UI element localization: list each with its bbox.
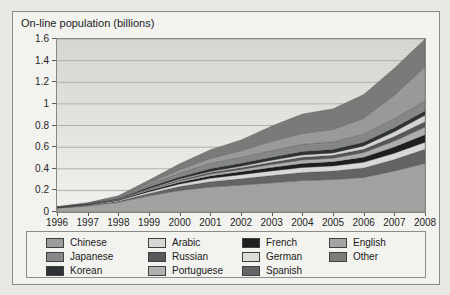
legend-item-arabic: Arabic bbox=[148, 238, 200, 248]
legend-item-russian: Russian bbox=[148, 252, 208, 262]
legend-label: French bbox=[266, 238, 297, 248]
x-tick-label: 2000 bbox=[163, 217, 197, 228]
legend-label: English bbox=[353, 238, 386, 248]
legend-item-portuguese: Portuguese bbox=[148, 266, 223, 276]
x-tick-label: 1996 bbox=[40, 217, 74, 228]
y-tick-label: 0.2 bbox=[15, 185, 49, 195]
legend-item-other: Other bbox=[329, 252, 378, 262]
legend-swatch-spanish bbox=[242, 266, 260, 276]
legend-swatch-korean bbox=[46, 266, 64, 276]
x-tick-mark bbox=[88, 213, 89, 216]
y-tick-label: 1.6 bbox=[15, 34, 49, 44]
legend-label: Arabic bbox=[172, 238, 200, 248]
legend-swatch-arabic bbox=[148, 238, 166, 248]
legend-item-german: German bbox=[242, 252, 302, 262]
legend-swatch-chinese bbox=[46, 238, 64, 248]
legend-label: German bbox=[266, 252, 302, 262]
legend-swatch-english bbox=[329, 238, 347, 248]
legend-label: Portuguese bbox=[172, 266, 223, 276]
x-tick-label: 1999 bbox=[132, 217, 166, 228]
x-tick-label: 2005 bbox=[316, 217, 350, 228]
chart-title: On-line population (billions) bbox=[21, 17, 154, 29]
x-tick-mark bbox=[118, 213, 119, 216]
legend-box: ChineseJapaneseKoreanArabicRussianPortug… bbox=[26, 231, 426, 278]
legend-item-spanish: Spanish bbox=[242, 266, 302, 276]
x-tick-label: 2007 bbox=[377, 217, 411, 228]
y-tick-label: 0.8 bbox=[15, 121, 49, 131]
legend-label: Spanish bbox=[266, 266, 302, 276]
chart-figure: On-line population (billions) 1.61.41.21… bbox=[12, 11, 440, 285]
legend-swatch-other bbox=[329, 252, 347, 262]
x-tick-mark bbox=[149, 213, 150, 216]
legend-item-japanese: Japanese bbox=[46, 252, 113, 262]
legend-item-english: English bbox=[329, 238, 386, 248]
legend-swatch-portuguese bbox=[148, 266, 166, 276]
x-tick-label: 2004 bbox=[285, 217, 319, 228]
legend-label: Chinese bbox=[70, 238, 107, 248]
x-tick-label: 1997 bbox=[71, 217, 105, 228]
x-tick-mark bbox=[272, 213, 273, 216]
legend-label: Korean bbox=[70, 266, 102, 276]
plot-area bbox=[56, 38, 426, 213]
scanned-book-page: { "figure": { "title": "On-line populati… bbox=[0, 0, 450, 295]
legend-label: Other bbox=[353, 252, 378, 262]
legend-item-korean: Korean bbox=[46, 266, 102, 276]
x-tick-mark bbox=[302, 213, 303, 216]
y-tick-label: 1 bbox=[15, 99, 49, 109]
y-tick-label: 0 bbox=[15, 207, 49, 217]
x-tick-label: 2002 bbox=[224, 217, 258, 228]
legend-item-chinese: Chinese bbox=[46, 238, 107, 248]
legend-label: Japanese bbox=[70, 252, 113, 262]
legend-swatch-german bbox=[242, 252, 260, 262]
stacked-area-chart bbox=[57, 39, 425, 212]
x-tick-label: 1998 bbox=[101, 217, 135, 228]
x-tick-mark bbox=[364, 213, 365, 216]
legend-item-french: French bbox=[242, 238, 297, 248]
x-tick-mark bbox=[425, 213, 426, 216]
x-tick-label: 2006 bbox=[347, 217, 381, 228]
legend-swatch-japanese bbox=[46, 252, 64, 262]
x-tick-mark bbox=[210, 213, 211, 216]
legend-label: Russian bbox=[172, 252, 208, 262]
x-tick-mark bbox=[394, 213, 395, 216]
legend-swatch-french bbox=[242, 238, 260, 248]
x-tick-mark bbox=[57, 213, 58, 216]
y-tick-label: 0.4 bbox=[15, 164, 49, 174]
x-tick-label: 2001 bbox=[193, 217, 227, 228]
x-tick-mark bbox=[180, 213, 181, 216]
x-tick-mark bbox=[241, 213, 242, 216]
x-tick-mark bbox=[333, 213, 334, 216]
legend-swatch-russian bbox=[148, 252, 166, 262]
y-tick-label: 0.6 bbox=[15, 142, 49, 152]
y-tick-label: 1.4 bbox=[15, 56, 49, 66]
x-tick-label: 2003 bbox=[255, 217, 289, 228]
x-tick-label: 2008 bbox=[408, 217, 442, 228]
y-tick-label: 1.2 bbox=[15, 77, 49, 87]
